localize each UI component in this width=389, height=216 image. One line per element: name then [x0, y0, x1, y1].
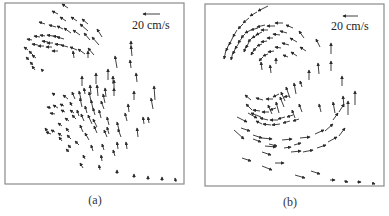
velocity-vector — [67, 135, 71, 139]
velocity-vector — [294, 143, 301, 145]
velocity-vector — [107, 117, 109, 125]
velocity-vector — [93, 119, 97, 127]
velocity-vector — [102, 144, 104, 150]
velocity-vector — [88, 48, 94, 55]
velocity-vector — [72, 115, 76, 119]
velocity-vector — [115, 56, 117, 68]
velocity-vector — [317, 145, 326, 148]
velocity-vector — [40, 35, 45, 36]
velocity-vector — [99, 165, 100, 170]
velocity-vector — [268, 51, 274, 52]
velocity-vector — [231, 52, 233, 60]
panel-b: 20 cm/s (b) — [205, 4, 384, 209]
velocity-vector — [333, 102, 335, 113]
velocity-vector — [286, 25, 293, 28]
velocity-vector — [73, 30, 80, 35]
velocity-vector — [62, 4, 68, 8]
velocity-vector — [68, 145, 71, 148]
velocity-vector — [258, 6, 268, 11]
velocity-vector — [242, 158, 251, 161]
velocity-vector — [101, 101, 104, 109]
velocity-vector — [241, 128, 250, 131]
velocity-vector — [339, 104, 344, 112]
velocity-vector — [283, 121, 290, 123]
velocity-vector — [131, 46, 132, 56]
velocity-vector — [41, 69, 43, 71]
velocity-vector — [256, 32, 262, 35]
velocity-vector — [245, 95, 251, 100]
velocity-vector — [91, 100, 93, 109]
velocity-vector — [83, 155, 85, 159]
velocity-vector — [259, 57, 263, 61]
velocity-vector — [253, 139, 261, 142]
velocity-vector — [61, 110, 65, 112]
velocity-vector — [261, 41, 267, 42]
velocity-vector — [299, 104, 302, 112]
velocity-vector — [270, 108, 276, 110]
velocity-vector — [344, 181, 348, 182]
panel-a-caption: (a) — [88, 193, 101, 207]
velocity-vector — [63, 95, 68, 99]
velocity-vector — [303, 150, 313, 152]
velocity-vector — [80, 163, 83, 168]
velocity-vector — [262, 152, 271, 155]
velocity-vector — [57, 26, 63, 29]
velocity-vector — [32, 44, 38, 45]
velocity-vector — [99, 110, 101, 118]
velocity-vector — [72, 92, 75, 99]
velocity-vector — [61, 45, 68, 47]
velocity-vector — [47, 107, 51, 108]
velocity-vector — [300, 137, 310, 138]
velocity-vector — [55, 44, 62, 45]
velocity-vector — [104, 130, 107, 137]
velocity-vector — [66, 149, 69, 152]
velocity-vector — [58, 133, 62, 136]
velocity-vector — [263, 54, 268, 56]
velocity-vector — [52, 11, 58, 14]
velocity-vector — [82, 19, 88, 24]
velocity-vector — [81, 114, 84, 121]
velocity-vector — [299, 31, 304, 38]
velocity-vector — [59, 137, 62, 141]
velocity-vector — [261, 62, 262, 70]
velocity-vector — [316, 39, 320, 47]
velocity-vector — [101, 155, 102, 161]
velocity-vector — [42, 41, 48, 42]
velocity-vector — [253, 135, 262, 138]
velocity-vector — [70, 102, 72, 106]
velocity-vector — [126, 142, 127, 149]
velocity-vector — [229, 37, 233, 45]
velocity-vector — [91, 145, 93, 151]
velocity-vector — [80, 98, 82, 107]
velocity-vector — [262, 166, 272, 170]
velocity-vector — [290, 38, 297, 42]
velocity-vector — [80, 125, 83, 132]
velocity-vector — [315, 130, 324, 134]
panel-a: 20 cm/s (a) — [5, 3, 184, 207]
velocity-vector — [51, 130, 55, 132]
velocity-vector — [65, 118, 69, 121]
velocity-vector — [246, 42, 249, 48]
velocity-vector — [88, 115, 92, 124]
velocity-vector — [53, 105, 58, 108]
velocity-vector — [90, 85, 91, 94]
velocity-vector — [284, 96, 289, 97]
velocity-vector — [107, 127, 109, 134]
velocity-vector — [273, 34, 280, 35]
velocity-vector — [80, 24, 88, 31]
velocity-vector — [318, 63, 319, 74]
velocity-vector — [60, 17, 66, 21]
velocity-vector — [295, 175, 305, 178]
velocity-vector — [233, 30, 237, 37]
velocity-vector — [118, 129, 121, 137]
velocity-vector — [263, 124, 271, 125]
velocity-vector — [293, 119, 299, 121]
velocity-vector — [148, 117, 149, 123]
velocity-vector — [291, 151, 301, 152]
velocity-vector — [143, 117, 144, 124]
velocity-vector — [273, 94, 279, 97]
velocity-vector — [251, 50, 254, 55]
velocity-vector — [269, 144, 277, 146]
velocity-vector — [238, 24, 243, 29]
velocity-vector — [84, 33, 90, 40]
